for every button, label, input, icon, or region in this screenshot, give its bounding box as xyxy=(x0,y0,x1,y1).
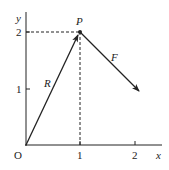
y-axis-label: y xyxy=(15,12,21,24)
vector-diagram: y x O 2 1 1 2 P R F xyxy=(0,0,169,170)
point-p-dot xyxy=(78,30,82,34)
vector-f-label: F xyxy=(110,51,118,63)
point-p-label: P xyxy=(75,15,83,27)
x-axis-label: x xyxy=(155,149,161,161)
y-tick-label-2: 2 xyxy=(16,26,22,38)
y-tick-label-1: 1 xyxy=(16,83,22,95)
vector-f-arrow xyxy=(80,32,139,91)
x-tick-label-2: 2 xyxy=(132,149,138,161)
vector-r-label: R xyxy=(43,77,51,89)
vector-r-arrow xyxy=(26,35,78,145)
x-tick-label-1: 1 xyxy=(77,149,83,161)
origin-label: O xyxy=(14,149,22,161)
